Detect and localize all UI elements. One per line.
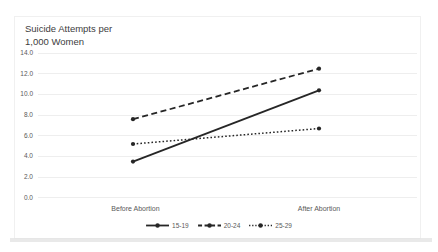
y-axis-tick-label: 12.0 bbox=[0, 70, 33, 78]
legend-line-sample-dashed bbox=[198, 221, 221, 230]
y-axis-tick-label: 14.0 bbox=[0, 49, 33, 57]
plot-area bbox=[0, 0, 438, 252]
legend-line-sample-dotted bbox=[249, 221, 272, 230]
legend-line-sample-solid bbox=[146, 221, 169, 230]
y-axis-tick-label: 2.0 bbox=[0, 173, 33, 181]
data-point-25-29-After Abortion bbox=[317, 126, 321, 130]
data-point-15-19-After Abortion bbox=[317, 88, 321, 92]
series-line-15-19 bbox=[133, 90, 319, 161]
data-point-20-24-Before Abortion bbox=[131, 117, 135, 121]
y-axis-tick-label: 0.0 bbox=[0, 194, 33, 202]
legend-item-25-29: 25-29 bbox=[249, 221, 292, 230]
chart-screenshot: Suicide Attempts per 1,000 Women 0.02.04… bbox=[0, 0, 438, 252]
legend-item-20-24: 20-24 bbox=[198, 221, 241, 230]
legend-label: 20-24 bbox=[224, 222, 241, 229]
data-point-20-24-After Abortion bbox=[317, 67, 321, 71]
x-category-label-before: Before Abortion bbox=[111, 205, 159, 212]
legend-item-15-19: 15-19 bbox=[146, 221, 189, 230]
y-axis-tick-label: 10.0 bbox=[0, 90, 33, 98]
data-point-15-19-Before Abortion bbox=[131, 159, 135, 163]
y-axis-tick-label: 4.0 bbox=[0, 152, 33, 160]
legend: 15-1920-2425-29 bbox=[146, 221, 292, 230]
chart-bottom-edge bbox=[10, 238, 432, 242]
y-axis-tick-label: 6.0 bbox=[0, 132, 33, 140]
legend-label: 15-19 bbox=[172, 222, 189, 229]
x-category-label-after: After Abortion bbox=[298, 205, 340, 212]
data-point-25-29-Before Abortion bbox=[131, 142, 135, 146]
legend-label: 25-29 bbox=[275, 222, 292, 229]
series-line-20-24 bbox=[133, 69, 319, 120]
series-line-25-29 bbox=[133, 129, 319, 144]
y-axis-tick-label: 8.0 bbox=[0, 111, 33, 119]
